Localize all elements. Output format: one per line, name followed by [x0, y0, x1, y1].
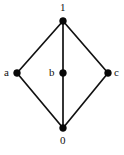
hasse-diagram-canvas: 1 a b c 0: [0, 0, 124, 155]
node-label-top: 1: [60, 2, 66, 13]
edge-right-to-bottom: [63, 73, 108, 128]
node-label-bottom: 0: [60, 135, 66, 146]
node-dot-top: [60, 18, 67, 25]
edge-top-to-left: [17, 21, 63, 73]
node-dot-middle: [60, 70, 67, 77]
node-dot-bottom: [60, 125, 67, 132]
node-label-middle: b: [49, 67, 55, 78]
node-label-right: c: [114, 67, 119, 78]
edge-left-to-bottom: [17, 73, 63, 128]
node-dot-left: [14, 70, 21, 77]
lattice-graph: [0, 0, 124, 155]
edge-top-to-right: [63, 21, 108, 73]
node-dot-right: [105, 70, 112, 77]
node-label-left: a: [4, 67, 9, 78]
